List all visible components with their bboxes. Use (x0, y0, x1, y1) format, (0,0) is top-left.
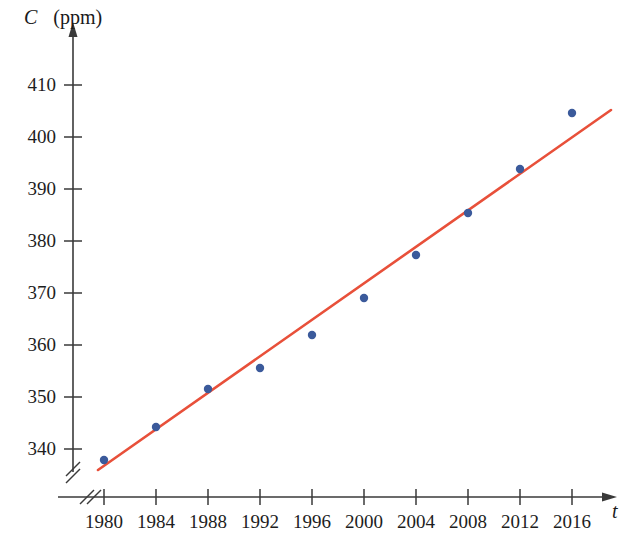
data-point (204, 385, 212, 393)
data-points (100, 109, 576, 464)
data-point (464, 209, 472, 217)
x-tick-label: 1992 (232, 512, 288, 531)
y-axis-variable-label: C (24, 6, 37, 29)
y-axis-unit-label: (ppm) (53, 6, 102, 29)
y-tick-label: 360 (10, 335, 56, 354)
x-tick-label: 1984 (128, 512, 184, 531)
y-axis (69, 22, 78, 472)
regression-line (98, 110, 611, 470)
y-tick-label: 400 (10, 127, 56, 146)
x-tick-label: 1988 (180, 512, 236, 531)
plot-area (0, 0, 632, 554)
x-tick-label: 2012 (492, 512, 548, 531)
y-tick-label: 370 (10, 283, 56, 302)
data-point (412, 251, 420, 259)
y-tick-label: 340 (10, 439, 56, 458)
x-axis (58, 493, 617, 502)
y-tick-label: 350 (10, 387, 56, 406)
x-tick-label: 2004 (388, 512, 444, 531)
data-point (568, 109, 576, 117)
data-point (152, 423, 160, 431)
x-tick-label: 1980 (76, 512, 132, 531)
data-point (516, 165, 524, 173)
y-tick-label: 390 (10, 179, 56, 198)
data-point (256, 364, 264, 372)
data-point (360, 294, 368, 302)
x-tick-label: 1996 (284, 512, 340, 531)
y-axis-title: C (ppm) (24, 6, 102, 29)
y-tick-label: 380 (10, 231, 56, 250)
data-point (100, 456, 108, 464)
data-point (308, 331, 316, 339)
x-tick-label: 2008 (440, 512, 496, 531)
x-tick-label: 2016 (544, 512, 600, 531)
y-tick-label: 410 (10, 75, 56, 94)
x-tick-label: 2000 (336, 512, 392, 531)
x-axis-variable-label: t (612, 500, 618, 523)
co2-scatter-chart: C (ppm) t 410 400 390 380 370 360 350 34… (0, 0, 632, 554)
